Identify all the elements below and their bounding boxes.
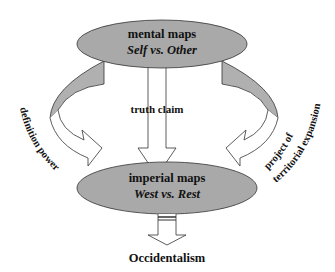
center-arrow-label: truth claim [131,103,184,115]
bottom-node-imperial-maps: imperial maps West vs. Rest [77,162,257,214]
top-node-subtitle: Self vs. Other [127,43,197,57]
bottom-node-subtitle: West vs. Rest [134,187,201,201]
output-arrow [148,214,186,245]
bottom-node-title: imperial maps [129,171,206,185]
top-node-title: mental maps [128,27,197,41]
left-curved-arrow [50,61,104,166]
output-label: Occidentalism [129,251,206,265]
top-node-mental-maps: mental maps Self vs. Other [77,20,247,68]
diagram-canvas: mental maps Self vs. Other imperial maps… [0,0,335,272]
center-arrow [138,66,176,176]
right-curved-arrow [222,61,278,166]
right-arrow-label-line2: territorial expansion [270,102,322,184]
